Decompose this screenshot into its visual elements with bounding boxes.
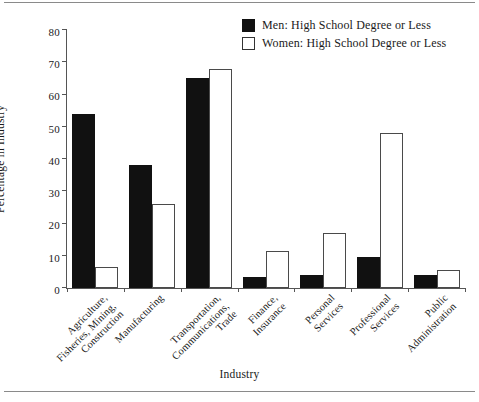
bar-men	[129, 165, 152, 288]
bar-group	[294, 30, 351, 288]
y-tick-mark	[62, 158, 67, 159]
y-tick-mark	[62, 223, 67, 224]
bar-men	[72, 114, 95, 288]
bar-women	[323, 233, 346, 288]
y-tick-mark	[62, 287, 67, 288]
y-tick-mark	[62, 61, 67, 62]
bar-men	[414, 275, 437, 288]
bar-women	[209, 69, 232, 288]
bar-women	[437, 270, 460, 288]
bar-men	[243, 277, 266, 288]
bar-women	[152, 204, 175, 288]
bar-group	[238, 30, 295, 288]
y-tick-mark	[62, 190, 67, 191]
y-tick-label: 10	[49, 252, 60, 264]
bar-men	[300, 275, 323, 288]
bar-group	[181, 30, 238, 288]
figure-top-rule	[4, 2, 475, 3]
plot-area: 01020304050607080	[66, 30, 465, 289]
x-tick-mark	[465, 288, 466, 292]
bar-group	[351, 30, 408, 288]
y-tick-label: 60	[49, 90, 60, 102]
bar-group	[124, 30, 181, 288]
bar-women	[266, 251, 289, 288]
y-tick-mark	[62, 126, 67, 127]
x-axis-category-labels: Agriculture,Fisheries, Mining,Constructi…	[66, 292, 464, 372]
y-tick-label: 30	[49, 187, 60, 199]
bar-group	[408, 30, 465, 288]
y-tick-mark	[62, 94, 67, 95]
y-tick-label: 70	[49, 58, 60, 70]
y-tick-label: 20	[49, 219, 60, 231]
figure-bottom-rule	[4, 391, 475, 392]
bar-women	[95, 267, 118, 288]
bar-group	[67, 30, 124, 288]
bars-container	[67, 30, 465, 288]
y-axis-title: Percentage in Industry	[0, 30, 10, 288]
y-tick-mark	[62, 255, 67, 256]
y-tick-label: 80	[49, 26, 60, 38]
y-tick-mark	[62, 29, 67, 30]
x-axis-title: Industry	[0, 368, 479, 380]
y-tick-label: 0	[54, 284, 60, 296]
bar-women	[380, 133, 403, 288]
figure-container: Men: High School Degree or Less Women: H…	[0, 0, 479, 402]
bar-men	[357, 257, 380, 288]
bar-men	[186, 78, 209, 288]
y-tick-label: 50	[49, 123, 60, 135]
y-tick-label: 40	[49, 155, 60, 167]
